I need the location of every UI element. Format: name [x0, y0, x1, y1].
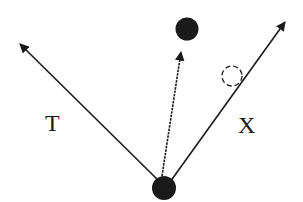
vector-diagram: T X: [0, 0, 303, 202]
origin-dot: [152, 176, 176, 200]
arrow-middle: [162, 52, 181, 176]
arrow-t: [20, 44, 160, 182]
label-t: T: [45, 110, 60, 136]
top-dot: [176, 18, 199, 41]
ghost-dot: [222, 66, 242, 86]
arrow-x: [170, 22, 285, 182]
label-x: X: [238, 112, 255, 138]
